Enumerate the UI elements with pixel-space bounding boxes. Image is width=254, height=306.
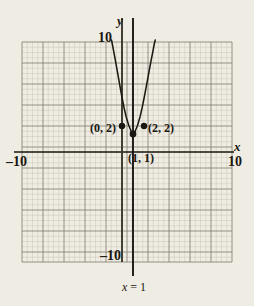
y-axis-tick-label-bottom: –10 — [100, 249, 121, 263]
point-1-1 — [130, 131, 137, 138]
point-0-2 — [119, 123, 125, 129]
point-label-1-1: (1, 1) — [128, 152, 154, 164]
graph-figure — [0, 0, 254, 306]
y-axis-label: y — [117, 14, 123, 27]
y-axis-tick-label-top: 10 — [98, 31, 112, 45]
point-2-2 — [141, 123, 147, 129]
x-axis-label: x — [234, 140, 241, 153]
vertical-line-equation-label: x = 1 — [122, 281, 146, 293]
x-axis-tick-label-left: –10 — [6, 155, 27, 169]
point-label-0-2: (0, 2) — [90, 122, 116, 134]
x-axis-tick-label-right: 10 — [228, 155, 242, 169]
point-label-2-2: (2, 2) — [148, 122, 174, 134]
equation-value: = 1 — [127, 280, 146, 294]
